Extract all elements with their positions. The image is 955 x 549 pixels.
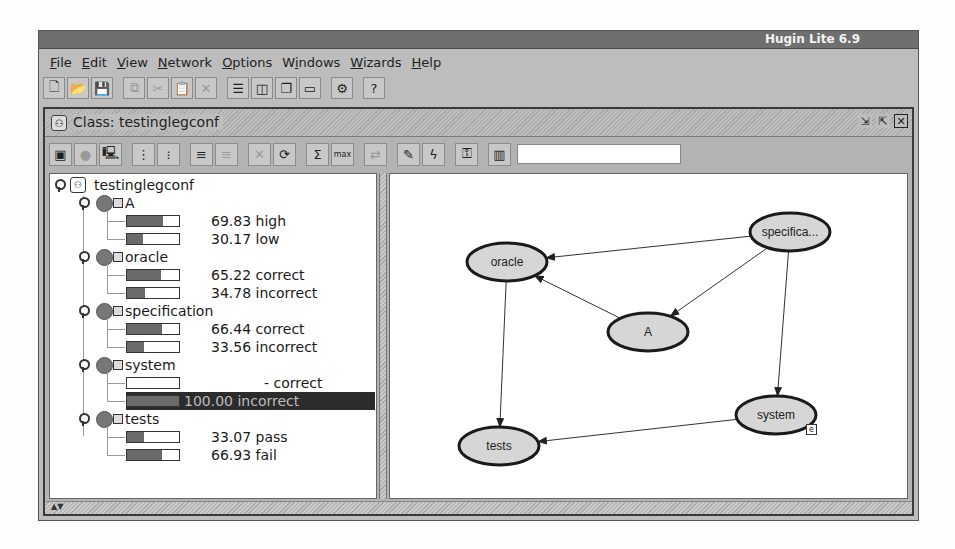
pin-icon[interactable] (78, 305, 88, 317)
state-row[interactable]: 33.56 incorrect (126, 338, 180, 356)
probability-bar-fill (127, 396, 179, 406)
collapse-list-icon: ≡ (221, 147, 232, 162)
node-checkbox-icon[interactable] (113, 360, 123, 370)
delete-button[interactable]: ✕ (195, 77, 217, 99)
node-checkbox-icon[interactable] (113, 252, 123, 262)
sum-propagate-button[interactable]: Σ (306, 143, 329, 166)
evidence-button[interactable]: ϟ (422, 143, 445, 166)
tree-node-oracle[interactable]: oracle (78, 248, 168, 266)
initialize-button[interactable]: ⟳ (273, 143, 296, 166)
state-label: correct (274, 375, 323, 391)
state-row[interactable]: 65.22 correct (126, 266, 180, 284)
window-title: Hugin Lite 6.9 (765, 32, 860, 46)
edge-system-to-tests[interactable] (538, 419, 737, 441)
max-propagate-button[interactable]: max (331, 143, 354, 166)
data-button[interactable]: ▥ (488, 143, 511, 166)
pin-icon[interactable] (54, 179, 64, 191)
tree-connector (107, 275, 125, 276)
pin-icon[interactable] (78, 197, 88, 209)
pin-icon[interactable] (78, 413, 88, 425)
save-button[interactable]: 💾 (91, 77, 113, 99)
tree-root[interactable]: ⚇testinglegconf (54, 176, 194, 194)
help-button[interactable]: ? (363, 77, 385, 99)
state-value: 66.44 correct (211, 320, 305, 338)
tree-connector (107, 221, 125, 222)
open-button[interactable]: 📂 (67, 77, 89, 99)
copy-button[interactable]: ⧉ (123, 77, 145, 99)
probability-bar-fill (127, 288, 145, 298)
key-button[interactable]: ⚿ (455, 143, 478, 166)
minimize-all-button[interactable]: ▭ (299, 77, 321, 99)
tile-horizontal-button[interactable]: ☰ (227, 77, 249, 99)
menu-network[interactable]: Network (153, 55, 217, 70)
restore-icon[interactable]: ⇲ (858, 114, 872, 128)
probability-bar (126, 377, 180, 389)
menu-edit[interactable]: Edit (77, 55, 112, 70)
edge-A-to-oracle[interactable] (535, 276, 621, 319)
state-row[interactable]: 30.17 low (126, 230, 180, 248)
menu-view[interactable]: View (112, 55, 153, 70)
pane-splitter[interactable] (379, 173, 387, 499)
collapse-list-button[interactable]: ≡ (215, 143, 238, 166)
menu-wizards[interactable]: Wizards (345, 55, 406, 70)
network-button[interactable]: ⚙ (331, 77, 353, 99)
state-row[interactable]: 33.07 pass (126, 428, 180, 446)
state-row[interactable]: 66.44 correct (126, 320, 180, 338)
menu-file[interactable]: File (45, 55, 77, 70)
chance-node-icon (96, 411, 113, 428)
state-probability: 69.83 (211, 213, 251, 229)
cascade-button[interactable]: ❐ (275, 77, 297, 99)
tree-node-specification[interactable]: specification (78, 302, 213, 320)
node-search-input[interactable] (517, 144, 681, 164)
tree-connector (107, 318, 108, 347)
propagate-disabled-button[interactable]: ⇄ (364, 143, 387, 166)
state-row[interactable]: - correct (126, 374, 180, 392)
cut-icon: ✂ (153, 81, 164, 96)
retract-icon: ✕ (254, 147, 265, 162)
properties-button[interactable]: ▣ (49, 143, 72, 166)
window-titlebar[interactable]: Hugin Lite 6.9 (39, 31, 918, 49)
expand-all-button[interactable]: ⁝ (157, 143, 180, 166)
node-checkbox-icon[interactable] (113, 414, 123, 424)
tile-vertical-button[interactable]: ◫ (251, 77, 273, 99)
expand-nodes-button[interactable]: ⋮ (132, 143, 155, 166)
node-checkbox-icon[interactable] (113, 198, 123, 208)
bottom-splitter[interactable]: ▲▼ (45, 501, 912, 514)
pin-icon[interactable] (78, 359, 88, 371)
cut-button[interactable]: ✂ (147, 77, 169, 99)
network-graph-pane[interactable]: oraclespecifica...Asystemetests (389, 173, 908, 499)
menu-options[interactable]: Options (217, 55, 277, 70)
edge-specification-to-A[interactable] (670, 248, 767, 316)
class-frame-titlebar[interactable]: ⚇ Class: testinglegconf ⇲ ⇱ ✕ (45, 109, 912, 137)
state-row[interactable]: 69.83 high (126, 212, 180, 230)
new-button[interactable]: 🗋 (43, 77, 65, 99)
tree-connector (107, 329, 125, 330)
tree-node-tests[interactable]: tests (78, 410, 159, 428)
state-value: - correct (264, 374, 323, 392)
evidence-badge-icon: e (806, 424, 817, 435)
compile-button[interactable]: ● (74, 143, 97, 166)
menu-windows[interactable]: Windows (277, 55, 345, 70)
node-list-button[interactable]: ≡ (190, 143, 213, 166)
pin-icon[interactable] (78, 251, 88, 263)
edge-specification-to-system[interactable] (777, 251, 788, 396)
menu-help[interactable]: Help (406, 55, 446, 70)
edge-oracle-to-tests[interactable] (500, 281, 506, 427)
expand-collapse-arrows-icon[interactable]: ▲▼ (51, 502, 63, 511)
edit-button[interactable]: ✎ (397, 143, 420, 166)
tree-node-system[interactable]: system (78, 356, 176, 374)
maximize-icon[interactable]: ⇱ (876, 114, 890, 128)
probability-bar-fill (127, 324, 162, 334)
paste-button[interactable]: 📋 (171, 77, 193, 99)
edge-specification-to-oracle[interactable] (546, 236, 751, 258)
run-mode-button[interactable]: 🖳 (99, 143, 122, 166)
state-row[interactable]: 66.93 fail (126, 446, 180, 464)
state-label: fail (256, 447, 277, 463)
node-tree-pane[interactable]: ⚇testinglegconfA69.83 high30.17 loworacl… (49, 173, 377, 499)
tree-connector (107, 383, 125, 384)
state-row[interactable]: 100.00 incorrect (126, 392, 375, 410)
close-icon[interactable]: ✕ (894, 114, 908, 128)
node-checkbox-icon[interactable] (113, 306, 123, 316)
state-row[interactable]: 34.78 incorrect (126, 284, 180, 302)
retract-button[interactable]: ✕ (248, 143, 271, 166)
